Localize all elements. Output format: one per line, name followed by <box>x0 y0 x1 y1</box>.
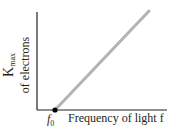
y-axis-label: Kmax of electrons <box>2 10 32 120</box>
f0-label: f0 <box>47 112 54 128</box>
ylabel-main: K <box>1 67 16 77</box>
ylabel-sub: max <box>8 53 17 67</box>
ylabel-line2: of electrons <box>19 10 32 120</box>
x-axis-label: Frequency of light f <box>68 111 164 126</box>
data-line <box>55 11 149 110</box>
f0-sub: 0 <box>50 119 54 128</box>
